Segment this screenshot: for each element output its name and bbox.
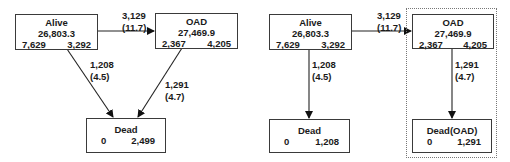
state-left-count: 7,629 <box>276 39 300 50</box>
state-left-count: 0 <box>427 136 432 147</box>
state-right-count: 4,205 <box>207 38 231 49</box>
state-right-count: 2,499 <box>131 135 155 146</box>
right-oad-box: OAD 27,469.9 2,3674,205 <box>412 14 494 49</box>
state-left-count: 2,367 <box>419 39 443 50</box>
state-right-count: 3,292 <box>67 39 91 50</box>
state-left-count: 0 <box>101 135 106 146</box>
state-value: 27,469.9 <box>413 28 493 39</box>
state-title: OAD <box>156 16 237 27</box>
edge-label-alive-oad: 3,129 (11.7) <box>122 10 146 34</box>
state-title: Dead <box>270 125 349 136</box>
state-value: 27,469.9 <box>156 27 237 38</box>
state-value: 26,803.3 <box>16 28 97 39</box>
state-title: OAD <box>413 17 493 28</box>
state-title: Alive <box>270 17 351 28</box>
state-left-count: 0 <box>284 136 289 147</box>
edge-label-oad-dead: 1,291 (4.7) <box>165 79 189 103</box>
edge-label-alive-dead-right: 1,208 (4.5) <box>312 59 336 83</box>
state-right-count: 1,291 <box>457 136 481 147</box>
state-title: Alive <box>16 17 97 28</box>
left-oad-box: OAD 27,469.9 2,3674,205 <box>155 13 238 49</box>
state-value: 26,803.3 <box>270 28 351 39</box>
state-left-count: 2,367 <box>162 38 186 49</box>
left-dead-box: Dead 02,499 <box>86 118 166 153</box>
right-dead-box: Dead 01,208 <box>269 119 350 153</box>
edge-label-alive-oad-right: 3,129 (11.7) <box>377 10 401 34</box>
right-dead-oad-box: Dead(OAD) 01,291 <box>412 119 492 153</box>
state-right-count: 4,205 <box>463 39 487 50</box>
right-alive-box: Alive 26,803.3 7,6293,292 <box>269 14 352 50</box>
state-right-count: 1,208 <box>315 136 339 147</box>
state-right-count: 3,292 <box>321 39 345 50</box>
state-title: Dead(OAD) <box>413 125 491 136</box>
edge-label-oad-deadoad-right: 1,291 (4.7) <box>455 59 479 83</box>
left-alive-box: Alive 26,803.3 7,6293,292 <box>15 14 98 50</box>
state-left-count: 7,629 <box>22 39 46 50</box>
state-title: Dead <box>87 124 165 135</box>
edge-label-alive-dead: 1,208 (4.5) <box>90 59 114 83</box>
